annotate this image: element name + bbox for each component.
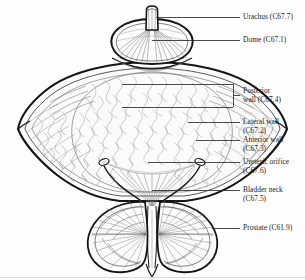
figure-canvas: Urachus (C67.7) Dome (C67.1) Posterior w… [0, 0, 305, 280]
label-anterior-wall: Anterior wall (C67.3) [243, 136, 283, 153]
label-ureteric-orifice-line2: (C67.6) [243, 167, 289, 176]
label-urachus: Urachus (C67.7) [243, 13, 293, 22]
label-posterior-wall: Posterior wall (C67.4) [243, 87, 281, 104]
prostate-group [88, 199, 218, 277]
label-urachus-line1: Urachus (C67.7) [243, 12, 293, 21]
label-dome: Dome (C67.1) [243, 36, 286, 45]
label-bladder-neck: Bladder neck (C67.5) [243, 186, 283, 203]
label-ureteric-orifice: Ureteric orifice (C67.6) [243, 158, 289, 175]
label-prostate: Prostate (C61.9) [243, 224, 292, 233]
label-anterior-wall-line2: (C67.3) [243, 145, 283, 154]
prostate-right-lobe [158, 202, 218, 272]
prostate-left-lobe [88, 202, 148, 272]
label-posterior-wall-line2: wall (C67.4) [243, 96, 281, 105]
label-lateral-wall-line2: (C67.2) [243, 127, 279, 136]
label-lateral-wall: Lateral wall (C67.2) [243, 118, 279, 135]
label-bladder-neck-line2: (C67.5) [243, 195, 283, 204]
label-prostate-line1: Prostate (C61.9) [243, 223, 292, 232]
urachus-group [146, 6, 158, 30]
label-dome-line1: Dome (C67.1) [243, 35, 286, 44]
